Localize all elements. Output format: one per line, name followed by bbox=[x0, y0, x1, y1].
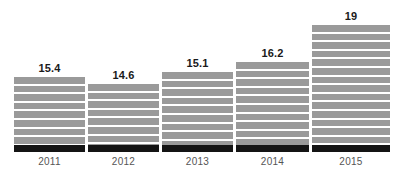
bar-foot-2011 bbox=[14, 145, 85, 152]
bar-2011[interactable] bbox=[14, 77, 85, 152]
bar-group-2012[interactable]: 14.6 bbox=[88, 84, 159, 152]
x-tick-2014: 2014 bbox=[236, 155, 309, 169]
x-tick-2012: 2012 bbox=[88, 155, 159, 169]
bar-foot-2015 bbox=[312, 145, 390, 152]
bar-chart: 15.4 14.6 15.1 16.2 bbox=[0, 0, 397, 175]
bar-2014[interactable] bbox=[236, 62, 309, 152]
bar-2013[interactable] bbox=[162, 72, 233, 152]
plot-area: 15.4 14.6 15.1 16.2 bbox=[0, 0, 397, 152]
x-tick-2015: 2015 bbox=[312, 155, 390, 169]
bar-2012[interactable] bbox=[88, 84, 159, 152]
x-axis: 2011 2012 2013 2014 2015 bbox=[0, 152, 397, 175]
bar-group-2011[interactable]: 15.4 bbox=[14, 77, 85, 152]
bar-group-2013[interactable]: 15.1 bbox=[162, 72, 233, 152]
bar-foot-2012 bbox=[88, 145, 159, 152]
x-tick-2013: 2013 bbox=[162, 155, 233, 169]
x-tick-2011: 2011 bbox=[14, 155, 85, 169]
bar-value-label-2014: 16.2 bbox=[236, 47, 309, 59]
bar-value-label-2013: 15.1 bbox=[162, 57, 233, 69]
bar-group-2015[interactable]: 19 bbox=[312, 25, 390, 152]
bar-2015[interactable] bbox=[312, 25, 390, 152]
bar-value-label-2015: 19 bbox=[312, 10, 390, 22]
bar-foot-2014 bbox=[236, 145, 309, 152]
bar-value-label-2011: 15.4 bbox=[14, 62, 85, 74]
bar-value-label-2012: 14.6 bbox=[88, 69, 159, 81]
bar-foot-2013 bbox=[162, 145, 233, 152]
bar-group-2014[interactable]: 16.2 bbox=[236, 62, 309, 152]
